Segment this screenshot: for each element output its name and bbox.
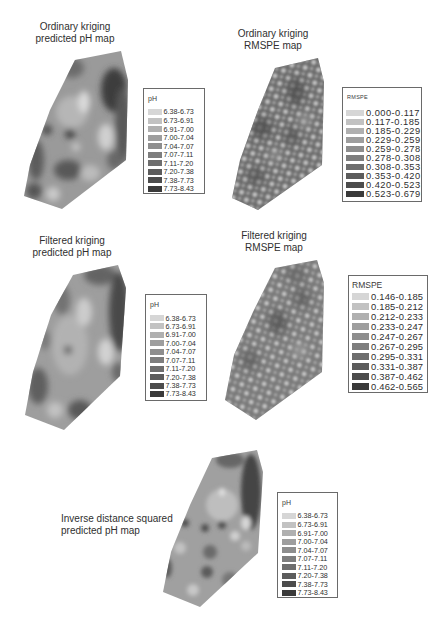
legend-swatch [150,391,164,397]
legend-swatch [150,349,164,355]
filtered-kriging-ph-title: Filtered kriging predicted pH map [7,235,137,259]
legend-item: 7.04-7.07 [282,546,328,555]
legend-swatch [282,556,296,562]
inverse-distance-ph-legend: pH 6.38-6.736.73-6.916.91-7.007.00-7.047… [277,492,338,598]
legend-swatch [346,164,364,171]
legend-item: 7.00-7.04 [148,133,194,142]
legend-swatch [148,118,162,124]
legend-swatch [148,143,162,149]
legend-item: 0.295-0.331 [352,351,423,361]
legend-swatch [352,333,369,340]
legend-swatch [282,547,296,553]
legend-swatch [352,323,369,330]
legend-item: 0.387-0.462 [352,371,423,381]
legend-swatch [282,530,296,536]
legend-item: 7.20-7.38 [282,572,328,581]
filtered-kriging-rmspe-title: Filtered kriging RMSPE map [209,230,339,254]
legend-swatch [148,186,162,192]
legend-swatch [148,152,162,158]
legend-swatch [150,366,164,372]
legend-swatch [150,374,164,380]
legend-item: 7.11-7.20 [282,563,328,572]
legend-swatch [346,128,364,135]
legend-item: 0.267-0.295 [352,341,423,351]
legend-item: 0.331-0.387 [352,361,423,371]
legend-swatch [346,191,364,198]
legend-swatch [352,313,369,320]
legend-range-label: 0.523-0.679 [366,189,421,199]
legend-swatch [352,303,369,310]
legend-item: 7.07-7.11 [282,554,328,563]
title-line-2: predicted pH map [61,525,173,537]
legend-swatch [346,137,364,144]
legend-title: RMSPE [347,94,368,100]
legend-swatch [352,373,369,380]
legend-swatch [346,119,364,126]
legend-swatch [282,573,296,579]
legend-swatch [352,343,369,350]
legend-swatch [346,110,364,117]
legend-item: 6.91-7.00 [282,529,328,538]
legend-swatch [148,135,162,141]
legend-swatch [346,182,364,189]
legend-item: 6.38-6.73 [148,108,194,117]
legend-item: 6.73-6.91 [148,116,194,125]
legend-swatch [352,353,369,360]
legend-swatch [150,332,164,338]
ordinary-kriging-rmspe-title: Ordinary kriging RMSPE map [208,28,338,52]
legend-item: 7.73-8.43 [148,185,194,194]
legend-item: 6.38-6.73 [282,512,328,521]
ordinary-kriging-rmspe-map [228,54,328,214]
title-line-2: predicted pH map [7,247,137,259]
legend-items: 0.000-0.1170.117-0.1850.185-0.2290.229-0… [346,109,421,199]
legend-range-label: 7.73-8.43 [164,184,194,193]
legend-swatch [352,293,369,300]
legend-range-label: 0.462-0.565 [371,381,423,392]
inverse-distance-ph-title: Inverse distance squared predicted pH ma… [61,513,173,537]
legend-item: 0.185-0.212 [352,301,423,311]
legend-items: 6.38-6.736.73-6.916.91-7.007.00-7.047.04… [150,314,196,398]
legend-item: 0.146-0.185 [352,291,423,301]
legend-swatch [148,126,162,132]
legend-swatch [148,177,162,183]
legend-swatch [150,315,164,321]
legend-item: 0.462-0.565 [352,381,423,391]
title-line-1: Filtered kriging [209,230,339,242]
figure-page: Ordinary kriging predicted pH map Ordina… [0,0,447,622]
legend-title: RMSPE [352,280,382,290]
legend-item: 7.07-7.11 [148,150,194,159]
legend-title: pH [150,301,159,309]
legend-swatch [282,564,296,570]
title-line-2: RMSPE map [208,40,338,52]
legend-item: 0.247-0.267 [352,331,423,341]
title-line-2: predicted pH map [10,33,140,45]
legend-item: 7.04-7.07 [148,142,194,151]
filtered-kriging-rmspe-map [222,256,328,424]
title-line-1: Inverse distance squared [61,513,173,525]
filtered-kriging-ph-legend: pH 6.38-6.736.73-6.916.91-7.007.00-7.047… [145,294,207,401]
legend-swatch [282,513,296,519]
title-line-1: Filtered kriging [7,235,137,247]
legend-swatch [148,169,162,175]
legend-range-label: 7.73-8.43 [166,389,196,398]
legend-swatch [282,581,296,587]
ordinary-kriging-ph-legend: pH 6.38-6.736.73-6.916.91-7.007.00-7.047… [143,88,205,194]
ordinary-kriging-ph-map [18,46,134,216]
legend-swatch [282,590,296,596]
title-line-2: RMSPE map [209,242,339,254]
legend-item: 7.38-7.73 [148,176,194,185]
legend-swatch [346,146,364,153]
legend-title: pH [282,499,291,507]
legend-swatch [150,383,164,389]
legend-swatch [282,522,296,528]
legend-item: 7.20-7.38 [148,168,194,177]
legend-item: 7.73-8.43 [150,390,196,398]
legend-item: 0.233-0.247 [352,321,423,331]
ordinary-kriging-rmspe-legend: RMSPE 0.000-0.1170.117-0.1850.185-0.2290… [342,87,422,202]
legend-item: 7.11-7.20 [148,159,194,168]
legend-swatch [150,357,164,363]
legend-item: 6.91-7.00 [148,125,194,134]
legend-swatch [150,340,164,346]
legend-swatch [346,155,364,162]
title-line-1: Ordinary kriging [208,28,338,40]
